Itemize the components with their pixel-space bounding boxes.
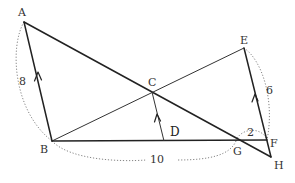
label-point-g: G xyxy=(233,145,242,158)
geometry-diagram: A B C D E F G H 8 10 6 2 xyxy=(0,0,295,183)
label-point-d: D xyxy=(170,125,180,139)
label-point-e: E xyxy=(240,34,248,47)
label-point-h: H xyxy=(274,159,284,172)
label-point-c: C xyxy=(148,76,156,89)
measure-arc-bg-right xyxy=(178,141,236,160)
label-point-a: A xyxy=(17,6,27,19)
measure-arc-bg xyxy=(52,141,146,161)
label-length-gf: 2 xyxy=(247,126,254,139)
segment-ab xyxy=(24,22,52,141)
label-length-ab: 8 xyxy=(19,75,26,88)
label-length-bg: 10 xyxy=(150,153,164,166)
label-length-ef: 6 xyxy=(266,84,273,97)
label-point-b: B xyxy=(40,143,48,156)
label-point-f: F xyxy=(270,137,278,150)
segment-bf xyxy=(52,140,267,141)
parallel-arrow-cd xyxy=(155,114,161,122)
